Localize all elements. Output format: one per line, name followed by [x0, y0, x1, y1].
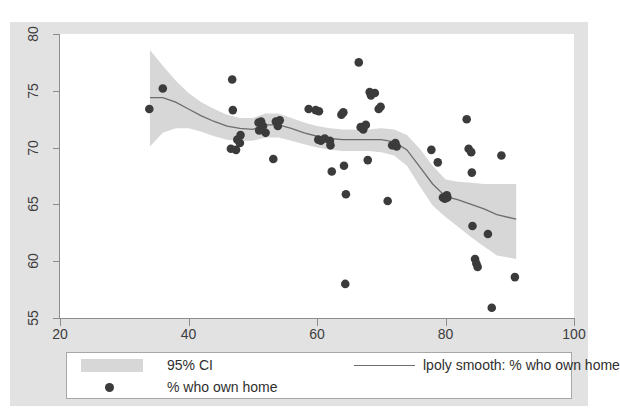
x-tick-mark	[189, 319, 190, 326]
y-tick-label: 75	[18, 78, 48, 104]
smooth-line-swatch	[354, 365, 415, 366]
x-tick-mark	[574, 319, 575, 326]
y-tick-mark	[53, 148, 60, 149]
scatter-point	[392, 142, 401, 151]
y-tick-mark	[53, 318, 60, 319]
scatter-marker-swatch	[105, 383, 114, 392]
scatter-point	[228, 75, 237, 84]
scatter-point	[236, 131, 245, 140]
x-tick-label: 20	[37, 326, 83, 343]
scatter-point	[462, 115, 471, 124]
y-axis-line	[59, 34, 60, 319]
scatter-point	[236, 139, 245, 148]
scatter-point	[354, 58, 363, 67]
scatter-point	[269, 155, 278, 164]
scatter-point	[473, 263, 482, 272]
y-tick-mark	[53, 261, 60, 262]
x-tick-label: 40	[166, 326, 212, 343]
scatter-point	[339, 108, 348, 117]
x-tick-label: 60	[294, 326, 340, 343]
y-tick-label: 60	[18, 248, 48, 274]
scatter-point	[326, 141, 335, 150]
scatter-point	[327, 167, 336, 176]
y-tick-label: 80	[18, 21, 48, 47]
y-tick-label: 70	[18, 135, 48, 161]
scatter-point	[145, 105, 154, 114]
y-tick-mark	[53, 34, 60, 35]
scatter-point	[376, 102, 385, 111]
confidence-band	[150, 50, 516, 259]
ci-band-swatch	[81, 359, 143, 372]
plot-area	[60, 34, 574, 318]
scatter-point	[275, 116, 284, 125]
scatter-point	[229, 106, 238, 115]
y-tick-label: 65	[18, 191, 48, 217]
scatter-point	[487, 303, 496, 312]
scatter-point	[362, 121, 371, 130]
legend-label-smooth: lpoly smooth: % who own home	[423, 354, 620, 376]
scatter-point	[341, 280, 350, 289]
scatter-point	[467, 148, 476, 157]
chart-legend: 95% CI lpoly smooth: % who own home % wh…	[66, 352, 572, 399]
x-tick-mark	[317, 319, 318, 326]
scatter-point	[371, 89, 380, 98]
legend-label-ci: 95% CI	[167, 354, 213, 376]
y-tick-mark	[53, 91, 60, 92]
legend-label-scatter: % who own home	[167, 376, 278, 398]
plot-canvas	[60, 34, 574, 318]
x-tick-label: 80	[423, 326, 469, 343]
scatter-point	[340, 161, 349, 170]
y-tick-mark	[53, 204, 60, 205]
x-tick-label: 100	[551, 326, 597, 343]
scatter-point	[433, 158, 442, 167]
scatter-point	[443, 193, 452, 202]
scatter-point	[468, 168, 477, 177]
scatter-point	[342, 190, 351, 199]
scatter-point	[159, 84, 168, 93]
scatter-point	[363, 156, 372, 165]
scatter-point	[427, 146, 436, 155]
scatter-point	[484, 230, 493, 239]
x-tick-mark	[60, 319, 61, 326]
scatter-point	[261, 129, 270, 138]
scatter-point	[468, 222, 477, 231]
legend-row-ci: 95% CI lpoly smooth: % who own home	[67, 354, 571, 376]
legend-row-scatter: % who own home	[67, 376, 571, 398]
scatter-point	[511, 273, 520, 282]
scatter-point	[315, 107, 324, 116]
scatter-point	[383, 197, 392, 206]
x-tick-mark	[446, 319, 447, 326]
clipped-top-text	[0, 0, 595, 10]
scatter-point	[497, 151, 506, 160]
stata-figure: 556065707580 20406080100 95% CI lpoly sm…	[10, 22, 588, 406]
